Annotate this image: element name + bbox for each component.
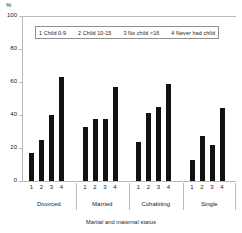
group-separator: [235, 183, 236, 210]
y-axis-unit-label: %: [6, 2, 11, 9]
group-label: Divorced: [22, 200, 76, 208]
y-axis-tick-label: 40: [10, 111, 17, 118]
y-axis-tick-label: 20: [10, 144, 17, 151]
group-label: Single: [183, 200, 237, 208]
bars-layer: [22, 16, 236, 181]
bar: [83, 127, 88, 181]
bar: [93, 119, 98, 181]
bar: [146, 113, 151, 181]
bar: [190, 160, 195, 181]
bar: [136, 142, 141, 181]
bar: [49, 115, 54, 181]
y-axis-tick-label: 100: [7, 12, 17, 19]
bar: [156, 107, 161, 181]
bar: [200, 136, 205, 181]
bar: [39, 140, 44, 181]
x-axis-groups: DivorcedMarriedCohabitingSingle: [22, 183, 236, 211]
group-label: Married: [76, 200, 130, 208]
bar: [59, 77, 64, 181]
bar: [29, 153, 34, 181]
bar: [210, 145, 215, 181]
y-axis-tick-label: 80: [10, 45, 17, 52]
group-label: Cohabiting: [129, 200, 183, 208]
y-axis-tick-label: 60: [10, 78, 17, 85]
bar: [103, 119, 108, 181]
x-axis-line: [22, 181, 236, 182]
x-axis-title: Marital and maternal status: [0, 219, 242, 226]
bar-chart: % 020406080100 1 Child 0-9 2 Child 10-15…: [0, 0, 242, 233]
y-axis-tick-label: 0: [14, 177, 17, 184]
y-axis-tick-mark: [19, 181, 22, 182]
bar: [113, 87, 118, 181]
bar: [220, 108, 225, 181]
bar: [166, 84, 171, 181]
